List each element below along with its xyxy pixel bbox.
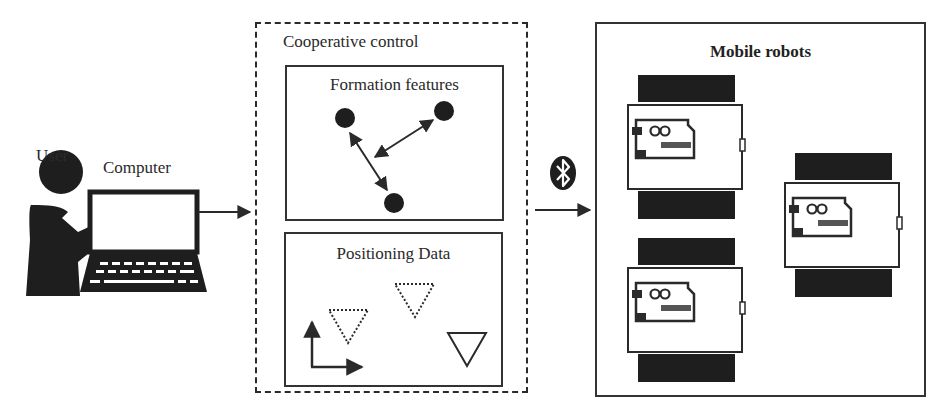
computer-label: Computer (103, 158, 171, 178)
computer-icon (80, 192, 207, 292)
formation-features-box: Formation features (285, 65, 504, 221)
positioning-data-title: Positioning Data (286, 244, 501, 264)
positioning-data-box: Positioning Data (284, 232, 503, 387)
cooperative-control-title: Cooperative control (283, 32, 419, 52)
formation-features-title: Formation features (287, 75, 502, 95)
bluetooth-icon (550, 156, 576, 190)
mobile-robots-box: Mobile robots (595, 22, 926, 397)
user-label: User (36, 146, 68, 166)
mobile-robots-title: Mobile robots (597, 42, 924, 62)
